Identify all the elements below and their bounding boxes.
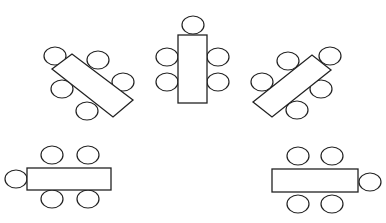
chair-5 bbox=[5, 170, 27, 188]
chair-2 bbox=[77, 146, 99, 164]
chair-4 bbox=[207, 48, 229, 66]
chair-2 bbox=[87, 51, 109, 69]
seating-diagram bbox=[0, 0, 386, 223]
chair-4 bbox=[321, 195, 343, 213]
chair-3 bbox=[287, 195, 309, 213]
chair-1 bbox=[287, 147, 309, 165]
table-group-top-center bbox=[156, 16, 229, 103]
chair-5 bbox=[359, 173, 381, 191]
chair-2 bbox=[321, 147, 343, 165]
chair-1 bbox=[319, 47, 341, 65]
table-group-top-left bbox=[44, 47, 134, 120]
table-group-bottom-right bbox=[272, 147, 381, 213]
table-bottom-right-horizontal bbox=[272, 169, 358, 192]
chair-1 bbox=[182, 16, 204, 34]
chair-3 bbox=[41, 190, 63, 208]
table-group-bottom-left bbox=[5, 146, 111, 208]
chair-4 bbox=[77, 190, 99, 208]
table-group-top-right bbox=[251, 47, 341, 119]
chair-3 bbox=[156, 73, 178, 91]
table-top-center-vertical bbox=[178, 35, 207, 103]
chair-5 bbox=[207, 73, 229, 91]
chair-1 bbox=[41, 146, 63, 164]
table-bottom-left-horizontal bbox=[27, 168, 111, 190]
chair-5 bbox=[76, 102, 98, 120]
chair-2 bbox=[156, 48, 178, 66]
